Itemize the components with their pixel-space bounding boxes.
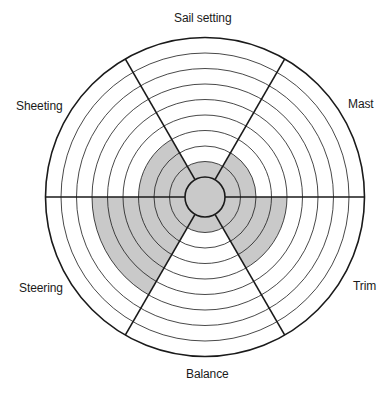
label-sheeting: Sheeting — [16, 99, 63, 113]
hub-circle — [185, 177, 225, 217]
label-balance: Balance — [186, 367, 229, 381]
center-hub — [185, 177, 225, 217]
label-steering: Steering — [19, 281, 63, 295]
label-sail-setting: Sail setting — [174, 11, 232, 25]
label-trim: Trim — [353, 279, 376, 293]
shaded-wedges — [92, 139, 287, 294]
label-mast: Mast — [348, 97, 374, 111]
wheel-chart — [0, 0, 388, 394]
